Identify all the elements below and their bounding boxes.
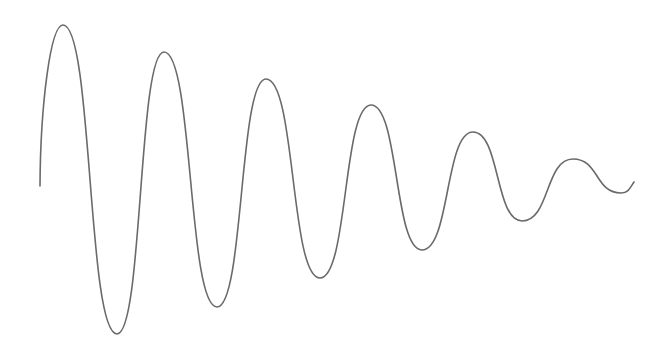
damped-wave-diagram (0, 0, 670, 351)
wave-curve (40, 25, 634, 334)
waveform-canvas: Damped oscillation waveform sketch (0, 0, 670, 351)
